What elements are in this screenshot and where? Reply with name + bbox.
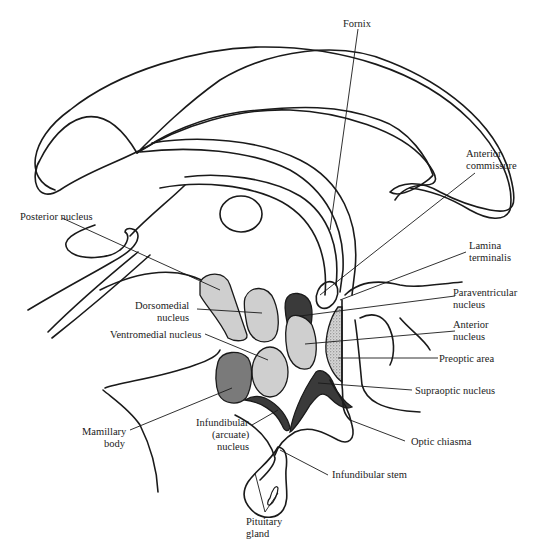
label-infundibular-2: (arcuate) [212,429,250,441]
dorsomedial-nucleus-shape [244,288,278,341]
label-anterior-nucleus-1: Anterior [453,319,489,330]
preoptic-area-shape [326,307,342,382]
interthalamic-adhesion [220,196,262,232]
pineal-region-outline [28,225,138,310]
label-fornix: Fornix [343,18,372,29]
label-preoptic-area: Preoptic area [439,353,494,364]
label-infundibular-stem: Infundibular stem [332,469,407,480]
label-ventromedial: Ventromedial nucleus [110,329,201,340]
label-anterior-commissure-1: Anterior [466,148,502,159]
anterior-nucleus-shape [286,315,317,369]
callosum-inner-arch [137,110,436,200]
pituitary-gland-outline [244,447,287,517]
label-anterior-commissure-2: commissure [466,160,517,171]
label-lamina-terminalis-1: Lamina [469,240,501,251]
fornix-band-inner [140,149,343,292]
label-dorsomedial-1: Dorsomedial [135,300,189,311]
brainstem-line-upper [130,185,185,236]
thalamus-outline-lower [160,184,326,295]
label-pituitary-1: Pituitary [246,516,283,527]
anterior-contour-2 [360,315,394,365]
label-optic-chiasma: Optic chiasma [411,436,472,447]
label-infundibular-3: nucleus [217,441,249,452]
brainstem-line-lower [48,252,138,332]
label-paraventricular-2: nucleus [453,299,485,310]
label-mamillary-2: body [104,438,126,449]
hypothalamus-diagram: Fornix Anterior commissure Posterior nuc… [0,0,537,552]
label-mamillary-1: Mamillary [82,426,127,437]
label-anterior-nucleus-2: nucleus [453,331,485,342]
optic-nerve-outline [355,320,420,412]
mamillary-body-shape [216,352,252,403]
thalamus-outline-upper [185,175,337,285]
corpus-callosum-outline [35,50,514,211]
label-paraventricular-1: Paraventricular [453,287,518,298]
ventromedial-nucleus-shape [252,347,288,397]
label-pituitary-2: gland [246,528,270,539]
anterior-contour-1 [345,282,462,295]
label-supraoptic-nucleus: Supraoptic nucleus [415,385,495,396]
label-dorsomedial-2: nucleus [157,312,189,323]
label-infundibular-1: Infundibular [196,417,249,428]
label-posterior-nucleus: Posterior nucleus [20,211,93,222]
label-lamina-terminalis-2: terminalis [469,252,511,263]
